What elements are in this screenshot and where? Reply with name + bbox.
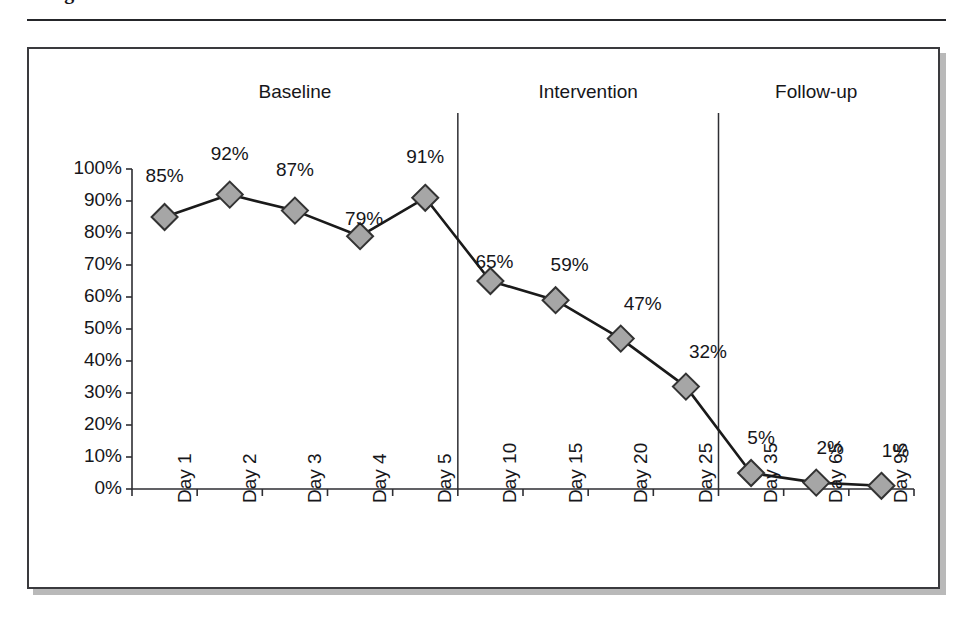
data-point-label: 47% (615, 293, 671, 315)
figure-title: Jillian's On-Task Behavior (148, 0, 376, 3)
chart-frame: 100%90%80%70%60%50%40%30%20%10%0%Day 1Da… (27, 47, 940, 589)
y-axis-tick-label: 100% (56, 157, 122, 179)
figure-number: Figure 1.2 (46, 0, 134, 3)
y-axis-tick-label: 20% (56, 413, 122, 435)
data-point-label: 87% (267, 159, 323, 181)
phase-label: Intervention (458, 81, 719, 103)
data-point-marker[interactable] (152, 204, 178, 230)
data-point-label: 91% (397, 146, 453, 168)
y-axis-tick-label: 50% (56, 317, 122, 339)
data-point-label: 85% (137, 165, 193, 187)
data-point-marker[interactable] (412, 185, 438, 211)
y-axis-tick-label: 80% (56, 221, 122, 243)
data-point-marker[interactable] (282, 198, 308, 224)
y-axis-tick-label: 90% (56, 189, 122, 211)
y-axis-tick-label: 10% (56, 445, 122, 467)
data-point-marker[interactable] (217, 182, 243, 208)
x-axis-tick-label: Day 4 (369, 453, 391, 503)
x-axis-tick-label: Day 1 (174, 453, 196, 503)
plot-area: 100%90%80%70%60%50%40%30%20%10%0%Day 1Da… (29, 49, 938, 587)
y-axis-tick-label: 40% (56, 349, 122, 371)
axis-lines (132, 169, 914, 489)
data-point-label: 32% (680, 341, 736, 363)
x-axis-tick-label: Day 25 (695, 443, 717, 503)
x-axis-tick-label: Day 20 (630, 443, 652, 503)
y-axis-tick-label: 30% (56, 381, 122, 403)
x-axis-tick-label: Day 15 (565, 443, 587, 503)
data-point-label: 1% (867, 440, 923, 462)
chart-canvas (29, 49, 938, 587)
x-axis-tick-label: Day 5 (434, 453, 456, 503)
data-point-marker[interactable] (608, 326, 634, 352)
figure-caption-band: Figure 1.2Jillian's On-Task Behavior (0, 0, 973, 17)
phase-label: Follow-up (719, 81, 915, 103)
y-axis-tick-label: 0% (56, 477, 122, 499)
y-axis-tick-label: 70% (56, 253, 122, 275)
x-axis-tick-label: Day 10 (499, 443, 521, 503)
data-point-label: 79% (336, 208, 392, 230)
x-axis-tick-label: Day 2 (239, 453, 261, 503)
y-axis-tick-label: 60% (56, 285, 122, 307)
data-point-label: 92% (202, 143, 258, 165)
data-point-label: 59% (542, 254, 598, 276)
x-axis-tick-label: Day 3 (304, 453, 326, 503)
x-axis-tick-label: Day 35 (760, 443, 782, 503)
data-point-label: 2% (802, 437, 858, 459)
caption-divider-rule (27, 19, 946, 21)
data-point-label: 65% (466, 251, 522, 273)
data-point-marker[interactable] (673, 374, 699, 400)
data-point-marker[interactable] (543, 287, 569, 313)
phase-label: Baseline (132, 81, 458, 103)
data-point-label: 5% (733, 427, 789, 449)
figure-caption: Figure 1.2Jillian's On-Task Behavior (46, 0, 376, 4)
